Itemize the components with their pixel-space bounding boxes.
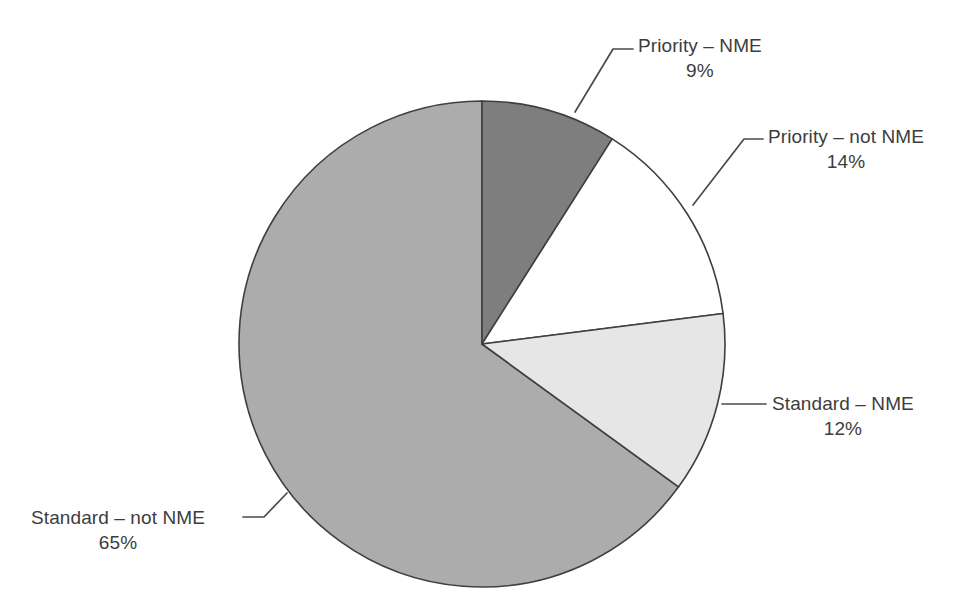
leader-line-priority-nme [575, 49, 633, 112]
pie-label-standard-not-nme-value: 65% [31, 530, 205, 555]
pie-label-standard-nme-text: Standard – NME [772, 391, 914, 416]
pie-label-priority-not-nme-value: 14% [768, 149, 924, 174]
pie-label-priority-nme-text: Priority – NME [638, 33, 762, 58]
pie-label-priority-not-nme-text: Priority – not NME [768, 124, 924, 149]
pie-label-standard-not-nme: Standard – not NME 65% [31, 505, 205, 555]
pie-label-priority-nme: Priority – NME 9% [638, 33, 762, 83]
pie-label-priority-nme-value: 9% [638, 58, 762, 83]
pie-chart-figure: Priority – NME 9% Priority – not NME 14%… [0, 0, 977, 616]
pie-label-standard-not-nme-text: Standard – not NME [31, 505, 205, 530]
pie-label-standard-nme: Standard – NME 12% [772, 391, 914, 441]
pie-label-standard-nme-value: 12% [772, 416, 914, 441]
pie-label-priority-not-nme: Priority – not NME 14% [768, 124, 924, 174]
leader-line-priority-not-nme [693, 139, 763, 205]
leader-line-standard-not-nme [243, 493, 287, 517]
